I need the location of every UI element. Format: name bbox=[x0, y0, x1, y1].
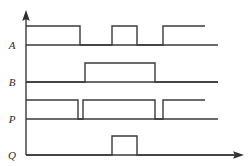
timing-diagram-figure: A B P Q bbox=[0, 0, 252, 166]
waveform-label-b: B bbox=[9, 76, 16, 88]
timing-diagram-canvas: A B P Q bbox=[0, 0, 252, 166]
waveform-b bbox=[26, 63, 218, 82]
waveform-a bbox=[26, 26, 205, 45]
waveform-label-p: P bbox=[8, 113, 16, 125]
waveform-row-p: P bbox=[8, 100, 218, 125]
waveform-row-q: Q bbox=[8, 136, 238, 161]
waveform-p bbox=[26, 100, 205, 119]
waveform-row-b: B bbox=[9, 63, 218, 88]
waveform-row-a: A bbox=[8, 26, 218, 51]
waveform-label-a: A bbox=[8, 39, 16, 51]
waveform-label-q: Q bbox=[8, 149, 16, 161]
waveform-q bbox=[26, 136, 238, 155]
